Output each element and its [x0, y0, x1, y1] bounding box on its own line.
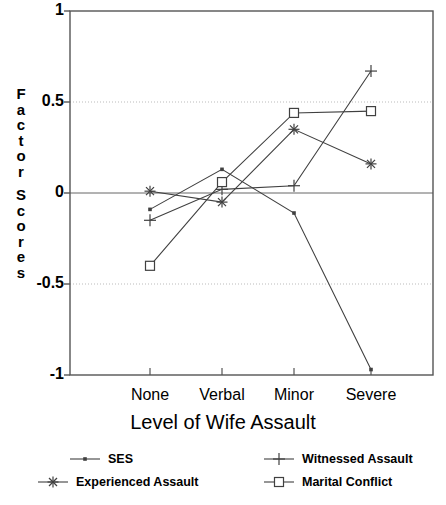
marker-dot — [369, 368, 373, 372]
y-tick-label: -0.5 — [12, 274, 64, 292]
legend-item-experienced-assault[interactable]: Experienced Assault — [36, 475, 199, 489]
marker-square — [367, 107, 376, 116]
legend-item-ses[interactable]: SES — [68, 452, 133, 466]
x-tick-label-severe: Severe — [326, 386, 416, 404]
legend-marker-plus-icon — [262, 452, 296, 466]
y-tick-label: 0.5 — [12, 92, 64, 110]
y-tick-label: 1 — [12, 1, 64, 19]
marker-square — [146, 261, 155, 270]
legend-marker-dot-icon — [68, 452, 102, 466]
legend-marker-asterisk-icon — [36, 475, 70, 489]
legend-label: Witnessed Assault — [302, 452, 413, 466]
marker-dot — [148, 208, 152, 212]
marker-square — [290, 108, 299, 117]
marker-square — [218, 178, 227, 187]
series-marital-conflict — [146, 107, 376, 271]
marker-square — [275, 478, 284, 487]
marker-dot — [292, 211, 296, 215]
chart-legend: SESWitnessed AssaultExperienced AssaultM… — [0, 450, 446, 502]
y-tick-label: 0 — [12, 183, 64, 201]
y-tick-label: -1 — [12, 365, 64, 383]
legend-marker-square-icon — [262, 475, 296, 489]
legend-label: Experienced Assault — [76, 475, 199, 489]
legend-label: SES — [108, 452, 133, 466]
marker-dot — [83, 457, 87, 461]
marker-dot — [220, 168, 224, 172]
series-experienced-assault — [145, 124, 377, 208]
legend-item-witnessed-assault[interactable]: Witnessed Assault — [262, 452, 413, 466]
chart-figure: Factor Scores 10.50-0.5-1 NoneVerbalMino… — [0, 0, 446, 505]
series-line — [150, 111, 371, 266]
series-line — [150, 169, 371, 369]
series-ses — [148, 168, 373, 372]
legend-label: Marital Conflict — [302, 475, 392, 489]
x-axis-title: Level of Wife Assault — [0, 411, 446, 434]
legend-item-marital-conflict[interactable]: Marital Conflict — [262, 475, 392, 489]
